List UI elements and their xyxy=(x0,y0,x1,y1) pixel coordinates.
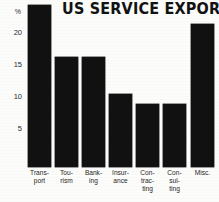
bar-contracting xyxy=(136,104,159,167)
y-tick-label-20: 20 xyxy=(14,28,22,37)
x-label-contracting: Con- trac- ting xyxy=(134,169,161,194)
bar-insurance xyxy=(109,94,132,167)
bar-tourism xyxy=(55,57,78,167)
bar-consulting xyxy=(163,104,186,167)
x-label-transport: Trans- port xyxy=(26,169,53,185)
x-label-insurance: Insur- ance xyxy=(107,169,134,185)
y-axis-unit-label: % xyxy=(15,8,21,15)
x-label-banking: Bank- ing xyxy=(80,169,107,185)
plot-area xyxy=(27,0,219,167)
x-label-consulting: Con- sul- ting xyxy=(161,169,188,194)
bar-transport xyxy=(28,5,51,167)
y-tick-label-15: 15 xyxy=(14,60,22,69)
bar-misc xyxy=(191,24,214,167)
bar-chart: US SERVICE EXPORT % 20 15 10 5 Trans- po… xyxy=(0,0,219,202)
x-label-misc: Misc. xyxy=(189,169,216,177)
y-axis: % 20 15 10 5 xyxy=(0,0,27,170)
x-axis-labels: Trans- port Tou- rism Bank- ing Insur- a… xyxy=(27,169,219,202)
y-tick-label-5: 5 xyxy=(18,124,22,133)
bar-banking xyxy=(82,57,105,167)
x-label-tourism: Tou- rism xyxy=(53,169,80,185)
y-tick-label-10: 10 xyxy=(14,92,22,101)
